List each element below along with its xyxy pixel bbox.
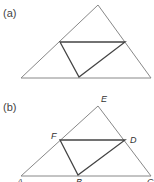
point-label-c: C — [147, 177, 154, 182]
inner-triangle-a — [60, 42, 125, 77]
point-label-e: E — [101, 94, 107, 104]
panel-label-a: (a) — [3, 7, 16, 19]
point-label-b: B — [76, 177, 82, 182]
point-label-d: D — [130, 135, 137, 145]
inner-triangle-b — [60, 140, 125, 175]
diagram-canvas — [0, 0, 154, 182]
panel-label-b: (b) — [3, 101, 16, 113]
point-label-a: A — [17, 177, 23, 182]
point-label-f: F — [51, 131, 57, 141]
panel-a — [21, 5, 151, 78]
